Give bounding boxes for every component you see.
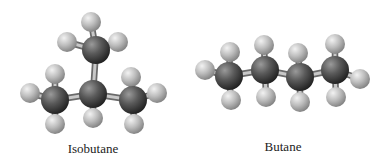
hydrogen-atom bbox=[256, 87, 276, 107]
hydrogen-atom bbox=[108, 32, 128, 52]
hydrogen-atom bbox=[57, 32, 77, 52]
isobutane-model bbox=[20, 12, 167, 134]
hydrogen-atom bbox=[288, 43, 308, 63]
carbon-atom bbox=[286, 63, 314, 91]
carbon-atom bbox=[82, 36, 110, 64]
carbon-atom bbox=[251, 56, 279, 84]
hydrogen-atom bbox=[220, 42, 240, 62]
hydrogen-atom bbox=[121, 67, 141, 87]
isobutane-label: Isobutane bbox=[68, 141, 119, 157]
hydrogen-atom bbox=[124, 114, 144, 134]
hydrogen-atom bbox=[254, 35, 274, 55]
hydrogen-atom bbox=[221, 90, 241, 110]
hydrogen-atom bbox=[147, 83, 167, 103]
hydrogen-atom bbox=[290, 92, 310, 112]
hydrogen-atom bbox=[20, 83, 40, 103]
hydrogen-atom bbox=[83, 108, 103, 128]
molecule-figure: Isobutane Butane bbox=[0, 0, 386, 163]
carbon-atom bbox=[321, 56, 349, 84]
butane-label: Butane bbox=[265, 139, 302, 155]
hydrogen-atom bbox=[326, 87, 346, 107]
carbon-atom bbox=[215, 62, 243, 90]
carbon-atom bbox=[41, 86, 69, 114]
ball-and-stick-models bbox=[0, 0, 386, 163]
butane-model bbox=[195, 34, 370, 112]
hydrogen-atom bbox=[81, 12, 101, 32]
carbon-atom bbox=[119, 86, 147, 114]
hydrogen-atom bbox=[45, 114, 65, 134]
hydrogen-atom bbox=[325, 34, 345, 54]
hydrogen-atom bbox=[45, 64, 65, 84]
hydrogen-atom bbox=[195, 60, 215, 80]
carbon-atom bbox=[79, 80, 107, 108]
hydrogen-atom bbox=[350, 69, 370, 89]
